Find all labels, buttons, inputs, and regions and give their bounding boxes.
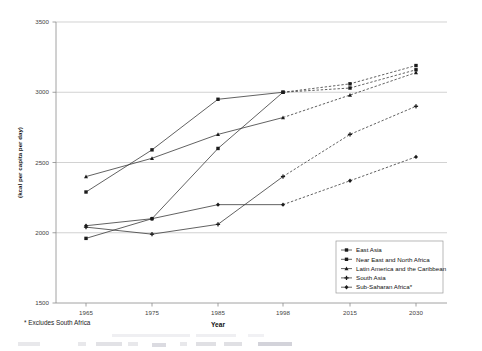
y-tick-label: 3000 xyxy=(35,88,49,95)
legend-item-label: East Asia xyxy=(356,246,382,253)
data-point-marker xyxy=(348,82,351,85)
data-point-marker xyxy=(281,91,284,94)
legend-item-label: Near East and North Africa xyxy=(356,256,430,263)
x-tick-label: 1998 xyxy=(276,309,290,316)
data-point-marker xyxy=(345,248,348,251)
data-point-marker xyxy=(348,86,351,89)
data-point-marker xyxy=(84,190,87,193)
y-tick-label: 2500 xyxy=(35,159,49,166)
data-point-marker xyxy=(216,98,219,101)
y-tick-label: 3500 xyxy=(35,18,49,25)
y-tick-label: 2000 xyxy=(35,229,49,236)
data-point-marker xyxy=(216,147,219,150)
chart-legend: East AsiaNear East and North AfricaLatin… xyxy=(336,241,447,293)
data-point-marker xyxy=(345,258,348,261)
legend-item-label: South Asia xyxy=(356,274,386,281)
chart-background xyxy=(0,0,482,351)
chart-footnote: * Excludes South Africa xyxy=(24,319,91,326)
x-tick-label: 2030 xyxy=(409,309,423,316)
line-chart: 3500 3000 2500 2000 1500 1965 1975 1985 … xyxy=(0,0,482,351)
data-point-marker xyxy=(150,148,153,151)
data-point-marker xyxy=(84,237,87,240)
legend-item-3[interactable]: Latin America and the Caribbean xyxy=(341,265,447,272)
x-tick-label: 1975 xyxy=(145,309,159,316)
x-axis-title: Year xyxy=(211,321,225,328)
data-point-marker xyxy=(414,64,417,67)
y-tick-label: 1500 xyxy=(35,299,49,306)
legend-item-label: Latin America and the Caribbean xyxy=(356,265,447,272)
chart-figure: 3500 3000 2500 2000 1500 1965 1975 1985 … xyxy=(0,0,482,351)
x-tick-label: 1965 xyxy=(79,309,93,316)
x-tick-label: 1985 xyxy=(211,309,225,316)
legend-item-label: Sub-Saharan Africa* xyxy=(356,283,413,290)
y-axis-title: (kcal per capita per day) xyxy=(16,127,23,198)
x-tick-label: 2015 xyxy=(343,309,357,316)
